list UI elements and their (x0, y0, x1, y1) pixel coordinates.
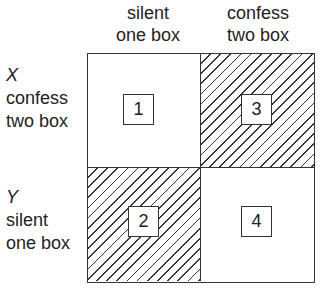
column-header-confess: confess two box (201, 2, 315, 46)
row-header-x: X confess two box (6, 64, 68, 133)
cell-1: 1 (88, 54, 201, 168)
row-header-y: Y silent one box (6, 186, 70, 255)
cell-number-box: 3 (241, 94, 272, 125)
column-header-line2: one box (91, 24, 205, 46)
row-header-line2: one box (6, 232, 70, 255)
cell-2-hatched: 2 (88, 168, 201, 281)
column-header-line2: two box (201, 24, 315, 46)
column-header-line1: silent (91, 2, 205, 24)
column-header-silent: silent one box (91, 2, 205, 46)
row-header-line2: two box (6, 110, 68, 133)
column-header-line1: confess (201, 2, 315, 24)
outcome-grid: 1 3 2 4 (87, 53, 315, 283)
cell-3-hatched: 3 (201, 54, 314, 168)
cell-number-box: 2 (128, 206, 159, 237)
row-variable: X (6, 64, 68, 87)
cell-number-box: 4 (241, 206, 272, 237)
row-header-line1: silent (6, 209, 70, 232)
cell-number-box: 1 (123, 94, 154, 125)
row-header-line1: confess (6, 87, 68, 110)
cell-4: 4 (201, 168, 314, 281)
row-variable: Y (6, 186, 70, 209)
